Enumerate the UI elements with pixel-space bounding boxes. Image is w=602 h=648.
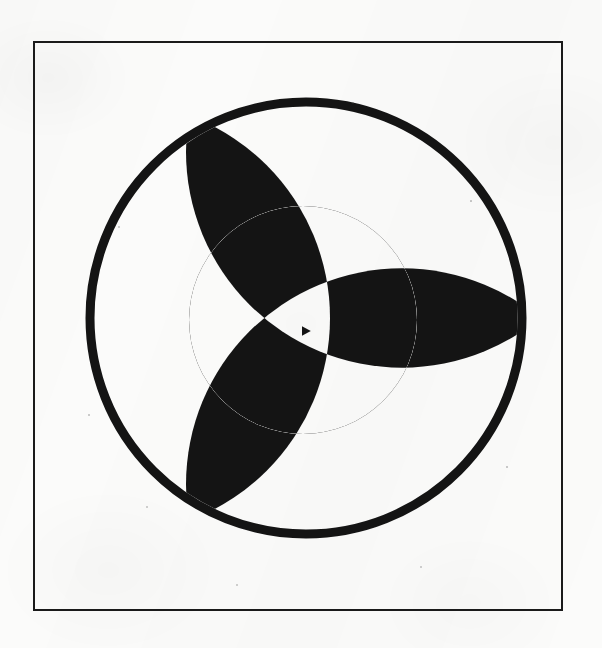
geometric-figure — [0, 0, 602, 648]
page-canvas — [0, 0, 602, 648]
